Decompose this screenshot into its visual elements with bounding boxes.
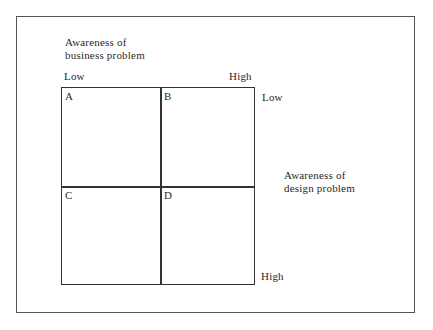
x-axis-high-label: High xyxy=(229,70,252,83)
x-axis-title-line1: Awareness of xyxy=(65,36,127,49)
quadrant-c-label: C xyxy=(65,189,72,202)
quadrant-d-label: D xyxy=(164,189,172,202)
x-axis-title-line2: business problem xyxy=(65,49,145,62)
quadrant-grid: A B C D xyxy=(61,87,255,285)
y-axis-title-line2: design problem xyxy=(284,182,355,195)
x-axis-low-label: Low xyxy=(64,70,85,83)
horizontal-divider xyxy=(62,186,254,188)
y-axis-high-label: High xyxy=(261,270,284,283)
quadrant-a-label: A xyxy=(65,90,73,103)
y-axis-title-line1: Awareness of xyxy=(284,169,346,182)
y-axis-low-label: Low xyxy=(262,91,283,104)
quadrant-b-label: B xyxy=(164,90,171,103)
